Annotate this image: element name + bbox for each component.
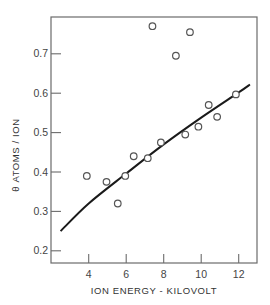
fit-curve-line (61, 85, 250, 232)
data-point (205, 102, 212, 109)
x-tick-label: 6 (123, 268, 129, 280)
fit-curve (61, 85, 250, 232)
y-axis: 0.20.30.40.50.60.7 (33, 47, 61, 256)
data-point (182, 131, 189, 138)
data-point (144, 155, 151, 162)
y-tick-label: 0.5 (33, 126, 48, 138)
plot-frame (51, 17, 257, 263)
x-axis: 4681012 (86, 254, 245, 280)
data-point (84, 173, 91, 180)
data-point (195, 123, 202, 130)
chart: 4681012 0.20.30.40.50.60.7 ION ENERGY - … (0, 0, 270, 305)
y-tick-label: 0.2 (33, 244, 48, 256)
data-point (158, 139, 165, 146)
data-point (130, 153, 137, 160)
x-axis-title: ION ENERGY - KILOVOLT (91, 285, 217, 296)
data-point (233, 91, 240, 98)
data-point (187, 29, 194, 36)
y-tick-label: 0.3 (33, 205, 48, 217)
data-point (122, 173, 129, 180)
y-tick-label: 0.6 (33, 87, 48, 99)
x-tick-label: 10 (195, 268, 207, 280)
data-point (103, 179, 110, 186)
data-points (84, 23, 240, 207)
data-point (114, 200, 121, 207)
y-axis-title: θ ATOMS / ION (10, 118, 21, 191)
y-tick-label: 0.4 (33, 166, 48, 178)
x-tick-label: 8 (161, 268, 167, 280)
data-point (173, 52, 180, 59)
x-tick-label: 12 (233, 268, 245, 280)
x-tick-label: 4 (86, 268, 92, 280)
data-point (214, 114, 221, 121)
data-point (149, 23, 156, 30)
y-tick-label: 0.7 (33, 47, 48, 59)
plot-border (51, 17, 257, 263)
